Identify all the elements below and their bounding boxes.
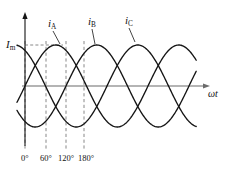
peak-amplitude-label: Im [6,39,15,50]
label-leader-lines [53,28,135,44]
x-axis-label: ωt [208,89,218,99]
curve-label-ia: iA [48,18,56,29]
curve-label-ic: iC [125,15,133,26]
y-axis-arrowhead [22,12,27,19]
three-phase-waveform-figure: Im iA iB iC ωt 0°60°120°180° [0,0,227,172]
tick-label-0: 0° [21,154,29,163]
leader-line-iB [92,29,95,44]
leader-line-iA [53,31,60,44]
curve-label-ib: iB [88,16,96,27]
dashed-guide-lines [25,41,84,150]
tick-label-3: 180° [78,154,94,163]
tick-label-1: 60° [40,154,52,163]
axis-lines [22,12,210,146]
leader-line-iC [129,28,135,42]
waveform-plot [0,0,227,172]
tick-label-2: 120° [58,154,74,163]
